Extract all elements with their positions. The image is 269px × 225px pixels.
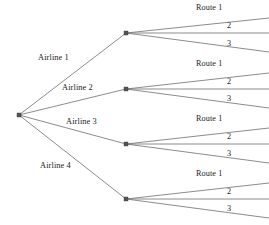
route-edge-airline-3-route-3 xyxy=(126,144,269,163)
route-edge-airline-2-route-1 xyxy=(126,73,269,89)
route-label-airline-1-route-1: Route 1 xyxy=(196,4,222,12)
route-label-airline-3-route-2: 2 xyxy=(227,133,231,141)
branch-node-airline-1 xyxy=(124,31,128,35)
route-label-airline-4-route-3: 3 xyxy=(227,205,231,213)
route-label-airline-3-route-3: 3 xyxy=(227,150,231,158)
branch-node-airline-3 xyxy=(124,142,128,146)
trunk-edge-airline-4 xyxy=(19,115,126,199)
node-group xyxy=(17,31,128,201)
route-edge-airline-4-route-1 xyxy=(126,183,269,199)
airline-label-1: Airline 1 xyxy=(38,54,69,62)
route-label-airline-4-route-2: 2 xyxy=(227,188,231,196)
trunk-edge-group xyxy=(19,33,126,199)
airline-label-3: Airline 3 xyxy=(66,118,97,126)
branch-node-airline-4 xyxy=(124,197,128,201)
route-edge-airline-3-route-1 xyxy=(126,128,269,144)
route-label-airline-1-route-2: 2 xyxy=(227,22,231,30)
trunk-edge-airline-2 xyxy=(19,89,126,115)
route-label-airline-3-route-1: Route 1 xyxy=(196,115,222,123)
route-edge-airline-2-route-3 xyxy=(126,89,269,108)
route-label-airline-2-route-1: Route 1 xyxy=(196,60,222,68)
route-edge-airline-1-route-1 xyxy=(126,18,269,33)
route-label-airline-4-route-1: Route 1 xyxy=(196,170,222,178)
airline-label-2: Airline 2 xyxy=(62,84,93,92)
trunk-edge-airline-1 xyxy=(19,33,126,115)
airline-route-tree-diagram: Route 123Airline 1Route 123Airline 2Rout… xyxy=(0,0,269,225)
route-label-airline-2-route-3: 3 xyxy=(227,95,231,103)
branch-node-airline-2 xyxy=(124,87,128,91)
airline-label-4: Airline 4 xyxy=(40,162,71,170)
route-edge-airline-1-route-3 xyxy=(126,33,269,52)
route-edge-airline-4-route-3 xyxy=(126,199,269,218)
route-label-airline-1-route-3: 3 xyxy=(227,40,231,48)
route-label-airline-2-route-2: 2 xyxy=(227,78,231,86)
root-node xyxy=(17,113,21,117)
